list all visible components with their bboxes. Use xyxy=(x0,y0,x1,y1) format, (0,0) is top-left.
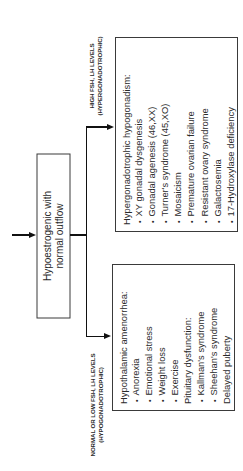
list-item: Sheehan's syndrome xyxy=(208,265,221,404)
delayed-puberty-heading: Delayed puberty xyxy=(221,265,233,404)
list-item: Galactosemia xyxy=(212,38,225,225)
list-item: Turner's syndrome (45,XO) xyxy=(159,38,172,225)
list-item: 17-Hydroxylase deficiency xyxy=(225,38,238,225)
list-item: Mosaicism xyxy=(172,38,185,225)
list-item: Premature ovarian failure xyxy=(185,38,198,225)
low-branch-label-line2: (HYPOGONADOTROPHIC) xyxy=(97,339,105,471)
low-branch-arrowhead-icon xyxy=(104,333,111,339)
connector-trunk xyxy=(86,126,88,337)
list-item: Resistant ovary syndrome xyxy=(199,38,212,225)
list-item: XY gonadal dysgenesis xyxy=(133,38,146,225)
hypergonadotrophic-title: Hypergonadotrophic hypogonadism: xyxy=(121,38,133,225)
hypothalamic-title: Hypothalamic amenorrhea: xyxy=(118,265,130,404)
hypergonadotrophic-box: Hypergonadotrophic hypogonadism: XY gona… xyxy=(115,37,238,232)
high-branch-label: HIGH FSH, LH LEVELS (HYPERGONADOTROPHIC) xyxy=(88,26,104,126)
list-item: Kallman's syndrome xyxy=(195,265,208,404)
high-branch-label-line2: (HYPERGONADOTROPHIC) xyxy=(96,26,104,126)
low-branch-label-line1: NORMAL OR LOW FSH, LH LEVELS xyxy=(89,339,97,471)
list-item: Exercise xyxy=(169,265,182,404)
high-branch-arrowhead-icon xyxy=(107,124,114,130)
source-node-hypoestrogenic: Hypoestrogenic with normal outflow xyxy=(36,153,70,318)
high-branch-label-line1: HIGH FSH, LH LEVELS xyxy=(88,26,96,126)
pituitary-heading: Pituitary dysfunction: xyxy=(182,265,194,404)
hypogonadotrophic-box: Hypothalamic amenorrhea: Anorexia Emotio… xyxy=(112,264,235,411)
list-item: Emotional stress xyxy=(143,265,156,404)
list-item: Anorexia xyxy=(130,265,143,404)
incoming-arrow-line xyxy=(12,234,30,236)
incoming-arrowhead-icon xyxy=(29,232,36,238)
source-node-line1: Hypoestrogenic with xyxy=(41,190,53,280)
list-item: Gonadal agenesis (46,XX) xyxy=(146,38,159,225)
low-branch-label: NORMAL OR LOW FSH, LH LEVELS (HYPOGONADO… xyxy=(89,339,105,471)
connector-center-to-trunk xyxy=(70,234,87,236)
connector-to-low-branch xyxy=(86,336,105,338)
list-item: Weight loss xyxy=(156,265,169,404)
connector-to-high-branch xyxy=(86,126,108,128)
source-node-line2: normal outflow xyxy=(53,190,65,280)
